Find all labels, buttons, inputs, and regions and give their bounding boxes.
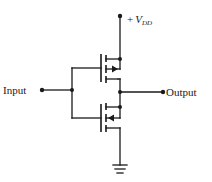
pmos-transistor bbox=[101, 54, 122, 83]
vdd-terminal: +VDD bbox=[118, 13, 152, 27]
nmos-transistor bbox=[101, 103, 122, 132]
vdd-label: +VDD bbox=[127, 13, 152, 27]
pmos-arrow-icon bbox=[112, 66, 118, 73]
nmos-drain-junction-dot bbox=[118, 105, 122, 109]
ground-icon bbox=[113, 165, 127, 173]
output-terminal-dot bbox=[161, 90, 165, 94]
nmos-arrow-icon bbox=[108, 115, 114, 122]
output-label: Output bbox=[166, 86, 197, 98]
pmos-source-junction-dot bbox=[118, 57, 122, 61]
cmos-inverter-diagram: +VDD Output I bbox=[0, 0, 212, 182]
input-label: Input bbox=[3, 84, 26, 96]
